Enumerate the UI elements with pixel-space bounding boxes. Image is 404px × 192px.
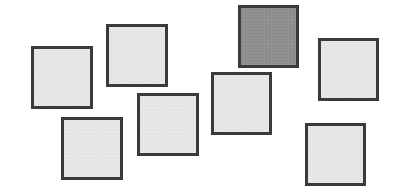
light-square-g (318, 38, 379, 101)
light-square-c (61, 117, 123, 180)
light-square-a (31, 46, 93, 109)
light-square-h (305, 123, 366, 186)
light-square-e (211, 72, 272, 135)
dark-square-f (238, 5, 299, 68)
light-square-b (106, 24, 168, 87)
diagram-canvas (0, 0, 404, 192)
light-square-d (137, 93, 199, 156)
